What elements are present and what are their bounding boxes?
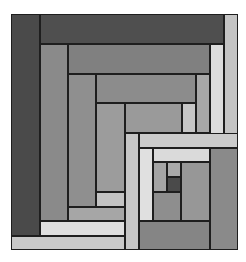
block-core-right [181,162,210,221]
block-bottom-outer-bar [11,236,125,250]
block-left-col-2 [40,44,68,221]
block-core-center [167,177,181,192]
block-inner-left-column [125,133,139,250]
block-bottom-bar-2 [40,221,125,236]
block-bottom-bar-3 [68,207,125,221]
block-bottom-bar-4 [96,192,125,207]
block-left-outer-column [11,14,40,236]
block-core-bottom [153,192,181,221]
block-top-bar-3 [96,74,196,103]
block-left-col-4 [96,103,125,192]
block-core-top [167,162,181,177]
block-core-left [153,162,167,192]
block-inner-right-column [210,148,238,250]
block-inner-bar-2 [153,148,210,162]
log-cabin-figure [0,0,246,262]
block-top-bar-4 [125,103,182,133]
block-left-col-3 [68,74,96,207]
block-top-outer-bar [40,14,224,44]
block-inner-bottom-bar [139,221,210,250]
block-top-bar-2 [68,44,210,74]
block-right-outer-column [224,14,238,148]
block-inner-col-2 [139,148,153,221]
block-inner-top-bar [139,133,238,148]
block-right-col-3 [196,74,210,133]
block-right-col-4 [182,103,196,133]
